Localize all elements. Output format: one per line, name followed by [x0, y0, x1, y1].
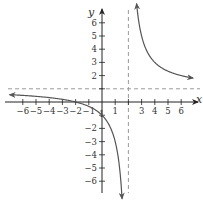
x-tick-label: 6: [178, 106, 183, 116]
y-tick-label: 4: [92, 44, 97, 54]
x-tick-label: −5: [30, 106, 43, 116]
x-tick-label: −2: [69, 106, 82, 116]
y-tick-label: 3: [92, 57, 97, 67]
y-tick-label: 6: [92, 18, 97, 28]
y-tick-label: −3: [84, 137, 97, 147]
function-graph: −6−5−4−3−2−11345665432−2−3−4−5−61 x y: [0, 0, 203, 200]
x-tick-label: −4: [43, 106, 56, 116]
x-tick-label: −6: [17, 106, 30, 116]
y-tick-label: −5: [84, 163, 97, 173]
y-tick-label: −2: [84, 123, 97, 133]
x-tick-label: 4: [152, 106, 157, 116]
y-tick-label: −6: [84, 176, 97, 186]
y-tick-label: 5: [92, 31, 97, 41]
x-axis-label: x: [196, 93, 203, 106]
x-tick-label: −1: [83, 106, 96, 116]
curves: [10, 4, 193, 199]
y-axis-label: y: [87, 6, 95, 19]
x-tick-label: 5: [165, 106, 170, 116]
y-tick-label: −4: [84, 150, 97, 160]
x-tick-label: −3: [56, 106, 69, 116]
curve-right-branch: [137, 4, 194, 78]
x-tick-label: 1: [112, 106, 117, 116]
x-tick-label: 3: [139, 106, 144, 116]
axes: [5, 9, 198, 193]
y-tick-label: 2: [92, 71, 97, 81]
